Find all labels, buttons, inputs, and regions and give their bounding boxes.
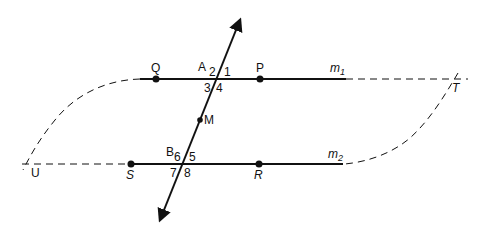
angle-1: 1 — [224, 65, 231, 79]
angle-3: 3 — [204, 81, 211, 95]
point-q — [153, 76, 160, 83]
label-m1: m1 — [330, 61, 345, 77]
angle-5: 5 — [189, 150, 196, 164]
dashed-curve-left — [23, 79, 140, 170]
dashed-curve-right — [345, 73, 458, 164]
point-m — [197, 117, 203, 123]
angle-8: 8 — [184, 166, 191, 180]
label-u: U — [31, 166, 40, 180]
point-p — [257, 76, 264, 83]
point-r — [256, 161, 263, 168]
label-t: T — [452, 81, 461, 95]
point-s — [128, 161, 135, 168]
label-s: S — [126, 168, 134, 182]
angle-2: 2 — [209, 65, 216, 79]
label-a: A — [198, 60, 206, 74]
angle-6: 6 — [174, 150, 181, 164]
parallel-lines-diagram: Q P A M B S R T U 2 1 3 4 6 5 7 8 m1 m2 — [0, 0, 484, 234]
label-m: M — [204, 113, 214, 127]
label-p: P — [256, 61, 264, 75]
label-m2: m2 — [328, 147, 343, 163]
angle-4: 4 — [216, 81, 223, 95]
label-b: B — [166, 145, 174, 159]
diagram-canvas: Q P A M B S R T U 2 1 3 4 6 5 7 8 m1 m2 — [0, 0, 484, 234]
angle-7: 7 — [170, 166, 177, 180]
label-r: R — [254, 168, 263, 182]
label-q: Q — [151, 61, 160, 75]
